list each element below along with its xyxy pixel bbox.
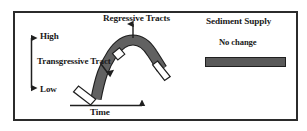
regressive-tracts-label: Regressive Tracts xyxy=(103,14,170,23)
sediment-supply-bar xyxy=(205,57,286,67)
figure-root: Regressive Tracts High Low Transgressive… xyxy=(0,0,307,131)
sediment-supply-title: Sediment Supply xyxy=(206,17,271,26)
sea-level-low-label: Low xyxy=(40,85,57,94)
sea-level-high-label: High xyxy=(40,32,59,41)
transgressive-tract-label: Transgressive Tract xyxy=(37,57,111,66)
sediment-supply-status: No change xyxy=(219,38,257,47)
time-axis-label: Time xyxy=(90,108,110,117)
